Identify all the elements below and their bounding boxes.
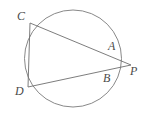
vertex-label-b: B bbox=[103, 72, 110, 84]
vertex-label-a: A bbox=[108, 40, 115, 52]
geometry-figure: C A B P D bbox=[0, 0, 151, 118]
vertex-label-d: D bbox=[15, 85, 24, 97]
segment-c-to-d bbox=[28, 23, 30, 87]
circle-shape bbox=[25, 10, 122, 107]
segment-c-to-p bbox=[30, 23, 131, 65]
vertex-label-p: P bbox=[130, 65, 137, 77]
vertex-label-c: C bbox=[17, 10, 25, 22]
segment-d-to-p bbox=[28, 65, 131, 87]
